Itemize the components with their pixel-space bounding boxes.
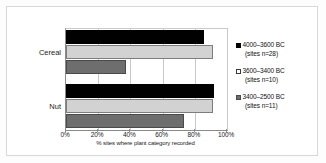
x-tick-label-20: 20% [91,131,104,138]
legend-sublabel-4000-3600: (sites n=28) [236,50,318,59]
x-tick-label-80: 80% [187,131,200,138]
chart-frame: Cereal Nut [6,6,318,156]
x-tick-label-0: 0% [60,131,69,138]
chart-legend: 4000–3600 BC (sites n=28) 3600–3400 BC (… [236,41,318,119]
plot-area [65,28,228,131]
x-tick-label-60: 60% [155,131,168,138]
x-tick-label-40: 40% [123,131,136,138]
legend-label-4000-3600: 4000–3600 BC [243,41,285,50]
y-tick-label-cereal: Cereal [11,48,61,57]
legend-item-3400-2500: 3400–2500 BC (sites n=11) [236,93,318,110]
legend-item-4000-3600: 4000–3600 BC (sites n=28) [236,41,318,58]
y-tick-label-nut: Nut [11,102,61,111]
legend-sublabel-3400-2500: (sites n=11) [236,102,318,111]
legend-swatch-icon-3400-2500 [236,95,241,100]
bar-group-cereal [66,29,227,76]
bar-group-nut [66,83,227,130]
bar-nut-3600-3400 [66,99,213,113]
bar-cereal-3600-3400 [66,45,213,59]
bar-cereal-3400-2500 [66,60,126,74]
legend-label-3600-3400: 3600–3400 BC [243,67,285,76]
y-axis-labels: Cereal Nut [7,7,61,157]
legend-sublabel-3600-3400: (sites n=10) [236,76,318,85]
bar-cereal-4000-3600 [66,30,204,44]
legend-label-3400-2500: 3400–2500 BC [243,93,285,102]
chart-figure: Cereal Nut [0,0,326,163]
legend-swatch-icon-4000-3600 [236,43,241,48]
legend-item-3600-3400: 3600–3400 BC (sites n=10) [236,67,318,84]
bar-nut-4000-3600 [66,84,214,98]
x-tick-label-100: 100% [218,131,234,138]
bar-nut-3400-2500 [66,114,184,128]
legend-swatch-icon-3600-3400 [236,69,241,74]
x-axis-title: % sites where plant category recorded [65,140,226,146]
